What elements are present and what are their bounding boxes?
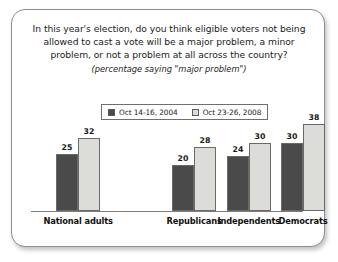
bar-value-independents-series-0: 24 [226,145,250,154]
bar-value-national-adults-series-1: 32 [77,127,101,136]
chart-card: In this year's election, do you think el… [11,9,325,247]
bar-independents-series-0 [227,156,249,211]
bar-independents-series-1 [249,143,271,211]
category-label-national-adults: National adults [44,216,113,226]
bar-democrats-series-1 [303,124,325,211]
chart-plot-area: 2532202824303038 National adultsRepublic… [12,10,326,248]
bar-value-republicans-series-1: 28 [193,136,217,145]
bar-republicans-series-1 [194,147,216,211]
bar-value-democrats-series-1: 38 [302,113,326,122]
bar-democrats-series-0 [281,143,303,211]
category-label-republicans: Republicans [167,216,222,226]
bar-value-democrats-series-0: 30 [280,132,304,141]
bar-value-independents-series-1: 30 [248,132,272,141]
bar-value-republicans-series-0: 20 [171,154,195,163]
category-label-independents: Independents [218,216,281,226]
bar-national-adults-series-0 [56,154,78,211]
category-label-democrats: Democrats [279,216,328,226]
bar-value-national-adults-series-0: 25 [55,143,79,152]
bar-republicans-series-0 [172,165,194,211]
x-axis-line [31,211,303,212]
bar-national-adults-series-1 [78,138,100,211]
